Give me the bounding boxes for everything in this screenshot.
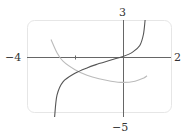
viewing-window-frame (28, 21, 172, 113)
x-min-label: −4 (5, 51, 21, 64)
graph: −4 2 3 −5 (0, 0, 189, 136)
light-curve (51, 39, 147, 82)
y-min-label: −5 (112, 121, 128, 134)
y-max-label: 3 (119, 6, 126, 19)
dark-curve (55, 20, 146, 117)
x-max-label: 2 (174, 51, 181, 64)
